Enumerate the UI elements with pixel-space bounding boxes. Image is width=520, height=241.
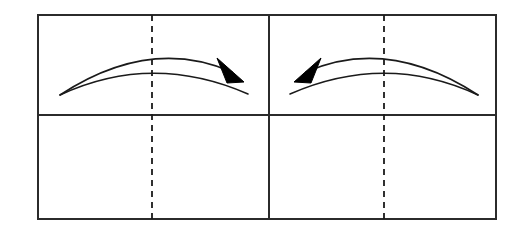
figure-background [0,0,520,241]
figure-root [0,0,520,241]
diagram-canvas [0,0,520,241]
